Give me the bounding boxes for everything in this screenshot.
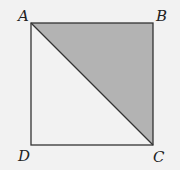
square-diagram: A B C D (0, 0, 180, 170)
vertex-label-d: D (17, 147, 30, 165)
vertex-label-b: B (155, 7, 167, 25)
vertex-label-a: A (16, 7, 29, 25)
vertex-label-c: C (153, 148, 165, 166)
diagram-canvas: A B C D (0, 0, 180, 170)
